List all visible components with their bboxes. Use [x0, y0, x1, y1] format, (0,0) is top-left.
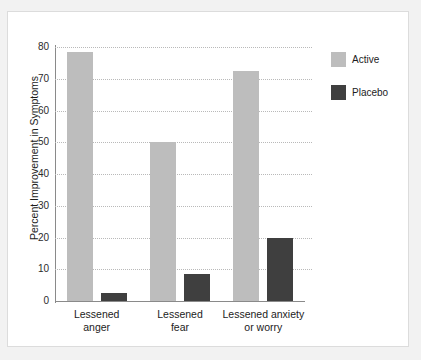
chart-legend: ActivePlacebo	[331, 52, 409, 118]
y-tick-label: 10	[25, 264, 49, 274]
gridline	[55, 142, 312, 143]
gridline	[55, 47, 312, 48]
bar-placebo-2	[267, 238, 293, 302]
y-axis-title: Percent Improvement in Symptoms	[28, 58, 40, 258]
gridline	[55, 174, 312, 175]
bar-active-0	[67, 52, 93, 301]
bar-active-2	[233, 71, 259, 301]
bar-active-1	[150, 142, 176, 301]
bar-placebo-1	[184, 274, 210, 301]
plot-area	[55, 47, 305, 301]
chart-card: 01020304050607080 Percent Improvement in…	[7, 11, 409, 347]
y-tick-label: 80	[25, 42, 49, 52]
x-axis-line	[55, 301, 305, 302]
gridline	[55, 79, 312, 80]
legend-item-placebo[interactable]: Placebo	[331, 85, 409, 100]
legend-label: Placebo	[352, 87, 388, 98]
legend-item-active[interactable]: Active	[331, 52, 409, 67]
x-axis-group-label: Lessened anxietyor worry	[212, 308, 315, 334]
legend-swatch-icon	[331, 52, 346, 67]
bar-placebo-0	[101, 293, 127, 301]
gridline	[55, 111, 312, 112]
legend-label: Active	[352, 54, 379, 65]
gridline	[55, 206, 312, 207]
legend-swatch-icon	[331, 85, 346, 100]
y-tick-label: 0	[25, 296, 49, 306]
